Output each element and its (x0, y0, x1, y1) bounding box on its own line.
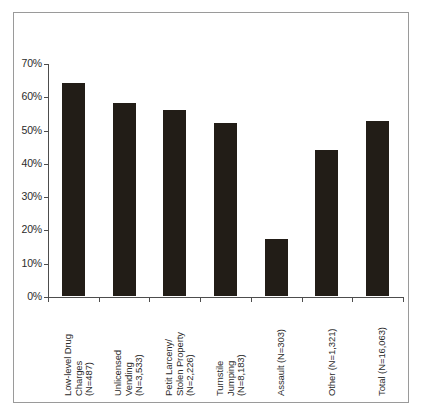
y-axis-tick-label: 70% (22, 57, 42, 69)
x-axis-category-label-line: (N=8,183) (236, 354, 247, 396)
bar (214, 123, 237, 296)
x-axis-category-label-line: Low-level Drug (63, 334, 74, 396)
y-axis-tick-mark (44, 131, 48, 132)
x-axis-category-label-line: Assault (N=303) (276, 329, 287, 396)
y-axis-tick-mark (44, 230, 48, 231)
x-axis-tick-mark (403, 297, 404, 302)
y-axis-line (48, 64, 49, 298)
bar (62, 83, 85, 296)
x-axis-category-label-line: Total (N=16,063) (377, 327, 388, 396)
bar (113, 103, 136, 296)
y-axis-tick-label: 30% (22, 190, 42, 202)
x-axis-category-labels: Low-level DrugCharges(N=487)UnlicensedVe… (48, 300, 403, 400)
bar (163, 110, 186, 296)
x-axis-category-label-line: (N=2,226) (185, 332, 196, 396)
y-axis-tick-label: 0% (27, 290, 42, 302)
y-axis-tick-mark (44, 264, 48, 265)
x-axis-category-label-line: (N=487) (84, 334, 95, 396)
y-axis-tick-label: 40% (22, 157, 42, 169)
x-axis-category-label-line: Petit Larceny/ (164, 332, 175, 396)
y-axis-tick-label: 60% (22, 90, 42, 102)
bar (265, 239, 288, 296)
y-axis-tick-mark (44, 97, 48, 98)
y-axis-tick-mark (44, 164, 48, 165)
plot-area: 0%10%20%30%40%50%60%70% (48, 64, 403, 297)
chart-figure: 0%10%20%30%40%50%60%70% Low-level DrugCh… (0, 0, 422, 419)
y-axis-tick-label: 20% (22, 223, 42, 235)
y-axis-tick-label: 50% (22, 124, 42, 136)
bar (315, 150, 338, 296)
y-axis-tick-mark (44, 197, 48, 198)
x-axis-category-label-line: (N=3,533) (134, 350, 145, 396)
x-axis-category-label-line: Other (N=1,321) (327, 329, 338, 396)
x-axis-line (48, 297, 403, 298)
y-axis-tick-label: 10% (22, 257, 42, 269)
y-axis-tick-mark (44, 64, 48, 65)
bar (366, 121, 389, 296)
x-axis-category-label-line: Turnstile (215, 354, 226, 396)
